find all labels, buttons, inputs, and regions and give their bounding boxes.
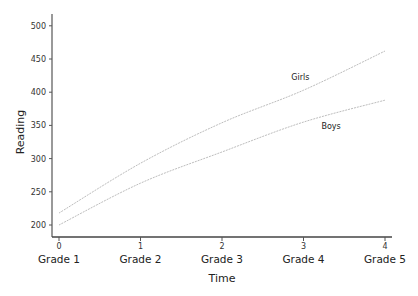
x-axis-label: Time [208,272,236,285]
series-line-girls [59,51,385,213]
x-category-label: Grade 1 [38,253,80,265]
x-tick-label: 2 [219,242,224,251]
x-tick-label: 4 [382,242,387,251]
x-category-label: Grade 3 [201,253,243,265]
y-axis-label: Reading [14,110,27,155]
series-line-boys [59,100,385,225]
y-tick-label: 500 [31,22,46,31]
x-tick-label: 1 [138,242,143,251]
y-tick-label: 450 [31,55,46,64]
reading-growth-chart: 200250300350400450500 0Grade 11Grade 22G… [0,0,418,296]
series-label-girls: Girls [291,73,309,82]
series-lines [59,51,385,225]
series-labels: GirlsBoys [291,73,340,131]
x-category-label: Grade 5 [364,253,406,265]
y-tick-label: 350 [31,121,46,130]
x-category-label: Grade 2 [119,253,161,265]
y-tick-label: 300 [31,155,46,164]
x-axis: 0Grade 11Grade 22Grade 33Grade 44Grade 5 [38,237,406,265]
x-tick-label: 0 [56,242,61,251]
y-tick-label: 400 [31,88,46,97]
x-category-label: Grade 4 [282,253,324,265]
y-axis: 200250300350400450500 [31,14,52,237]
x-tick-label: 3 [301,242,306,251]
y-tick-label: 200 [31,221,46,230]
series-label-boys: Boys [321,122,340,131]
y-tick-label: 250 [31,188,46,197]
